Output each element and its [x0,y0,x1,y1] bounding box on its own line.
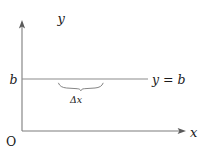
delta-x-underbrace-icon [59,83,104,91]
constant-function-diagram: y x O b y = b Δx [0,0,208,151]
line-equation-label: y = b [151,72,185,87]
figure-canvas: y x O b y = b Δx [0,0,208,151]
b-value-label: b [10,72,18,87]
origin-label: O [6,134,16,149]
delta-x-label: Δx [69,94,83,105]
x-axis-label: x [190,125,198,140]
y-axis-label: y [57,11,66,26]
